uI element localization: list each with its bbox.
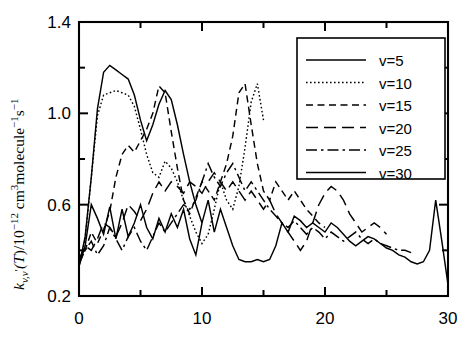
- svg-text:kv,v′(T)/10−12 cm3molecule−1s−: kv,v′(T)/10−12 cm3molecule−1s−1: [8, 98, 30, 290]
- legend-label-v15: v=15: [379, 97, 412, 114]
- legend-label-v20: v=20: [379, 120, 412, 137]
- y-axis-tick-labels: 0.20.61.01.4: [47, 13, 71, 306]
- y-tick-label: 0.6: [47, 196, 71, 215]
- x-axis-tick-labels: 0102030: [74, 309, 457, 328]
- legend-label-v10: v=10: [379, 75, 412, 92]
- x-tick-label: 30: [439, 309, 458, 328]
- x-tick-label: 10: [193, 309, 212, 328]
- y-tick-label: 1.0: [47, 104, 71, 123]
- y-axis-title: kv,v′(T)/10−12 cm3molecule−1s−1: [8, 98, 30, 290]
- series-line-v5: [79, 65, 202, 266]
- legend-label-v25: v=25: [379, 142, 412, 159]
- legend: v=5v=10v=15v=20v=25v=30: [297, 38, 445, 182]
- x-tick-label: 0: [74, 309, 83, 328]
- line-chart: 0.20.61.01.4 0102030 kv,v′(T)/10−12 cm3m…: [0, 0, 463, 337]
- legend-label-v5: v=5: [379, 52, 404, 69]
- legend-box: [297, 38, 445, 179]
- y-tick-label: 0.2: [47, 287, 71, 306]
- y-tick-label: 1.4: [47, 13, 71, 32]
- x-tick-label: 20: [316, 309, 335, 328]
- legend-label-v30: v=30: [379, 165, 412, 182]
- figure-container: 0.20.61.01.4 0102030 kv,v′(T)/10−12 cm3m…: [0, 0, 463, 337]
